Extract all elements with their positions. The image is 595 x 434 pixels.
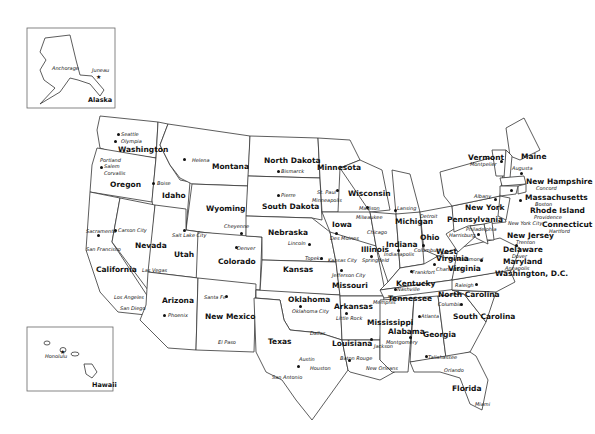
capital-label-olympia: Olympia (121, 139, 142, 144)
state-label-colorado: Colorado (218, 258, 256, 266)
city-label-el-paso: El Paso (218, 340, 236, 345)
city-dot (366, 206, 369, 209)
city-dot (422, 244, 425, 247)
city-dot (97, 234, 100, 237)
city-dot (335, 232, 338, 235)
state-label-maine: Maine (521, 153, 547, 161)
city-dot (308, 243, 311, 246)
state-label-south-dakota: South Dakota (262, 203, 319, 211)
state-label-nebraska: Nebraska (268, 229, 308, 237)
state-label-ohio: Ohio (420, 234, 439, 242)
state-label-hawaii: Hawaii (92, 382, 117, 389)
capital-label-montpelier: Montpelier (470, 162, 497, 167)
state-label-missouri: Missouri (332, 282, 368, 290)
city-label-dallas: Dallas (310, 331, 325, 336)
state-label-north-dakota: North Dakota (264, 157, 321, 165)
city-dot (240, 232, 243, 235)
city-label-houston: Houston (310, 366, 331, 371)
capital-label-salem: Salem (104, 164, 120, 169)
capital-label-augusta: Augusta (512, 166, 533, 171)
state-label-oklahoma: Oklahoma (288, 296, 330, 304)
capital-label-cheyenne: Cheyenne (224, 224, 249, 229)
capital-label-denver: Denver (237, 246, 255, 251)
capital-label-austin: Austin (299, 357, 315, 362)
state-label-georgia: Georgia (423, 331, 456, 339)
city-label-san-francisco: San Francisco (86, 247, 121, 252)
capital-label-carson-city: Carson City (118, 228, 147, 233)
state-label-iowa: Iowa (332, 221, 352, 229)
capital-label-little-rock: Little Rock (336, 316, 362, 321)
capital-label-montgomery: Montgomery (386, 340, 418, 345)
city-dot (425, 355, 428, 358)
city-dot (152, 182, 155, 185)
capital-label-indianapolis: Indianapolis (384, 252, 414, 257)
city-dot (163, 314, 166, 317)
city-dot (100, 166, 103, 169)
city-label-miami: Miami (475, 402, 490, 407)
city-label-kansas-city: Kansas City (328, 258, 357, 263)
capital-label-charleston: Charleston (436, 267, 463, 272)
city-label-los-angeles: Los Angeles (114, 295, 144, 300)
capital-label-frankfort: Frankfort (412, 270, 435, 275)
capital-label-santa-fe: Santa Fe (204, 295, 226, 300)
state-label-washington: Washington (118, 146, 168, 154)
capital-star-icon: ★ (96, 74, 101, 80)
city-label-seattle: Seattle (121, 132, 139, 137)
city-label-orlando: Orlando (444, 368, 464, 373)
city-label-las-vegas: Las Vegas (142, 268, 167, 273)
city-dot (409, 336, 412, 339)
state-label-west-virginia: West Virginia (436, 248, 466, 262)
city-dot (235, 246, 238, 249)
capital-label-springfield: Springfield (362, 258, 389, 263)
capital-label-baton-rouge: Baton Rouge (340, 356, 372, 361)
state-label-wyoming: Wyoming (206, 205, 245, 213)
city-label-philadelphia: Philadelphia (466, 227, 496, 232)
city-label-minneapolis: Minneapolis (312, 198, 342, 203)
capital-label-raleigh: Raleigh (455, 283, 474, 288)
state-label-washington-dc: Washington, D.C. (495, 270, 568, 278)
state-label-arizona: Arizona (162, 297, 194, 305)
state-label-montana: Montana (212, 163, 249, 171)
state-label-north-carolina: North Carolina (438, 291, 500, 299)
city-dot (519, 199, 522, 202)
city-dot (348, 359, 351, 362)
city-dot (320, 257, 323, 260)
state-label-new-york: New York (465, 204, 505, 212)
city-label-milwaukee: Milwaukee (356, 215, 382, 220)
city-dot (510, 189, 513, 192)
capital-label-st-paul: St. Paul (317, 190, 336, 195)
city-dot (225, 295, 228, 298)
state-label-arkansas: Arkansas (334, 303, 373, 311)
capital-star-icon: ★ (60, 349, 65, 355)
capital-label-oklahoma-city: Oklahoma City (292, 309, 329, 314)
state-label-pennsylvania: Pennsylvania (447, 216, 503, 224)
city-label-memphis: Memphis (373, 300, 396, 305)
capital-label-phoenix: Phoenix (168, 313, 188, 318)
city-label-new-orleans: New Orleans (366, 366, 398, 371)
city-label-san-diego: San Diego (120, 306, 146, 311)
city-dot (297, 365, 300, 368)
city-label-san-antonio: San Antonio (272, 375, 302, 380)
city-label-detroit: Detroit (420, 214, 437, 219)
state-label-wisconsin: Wisconsin (348, 190, 391, 198)
state-label-mississippi: Mississippi (367, 319, 413, 327)
capital-label-jefferson-city: Jefferson City (332, 273, 366, 278)
city-dot (370, 338, 373, 341)
city-dot (500, 160, 503, 163)
city-dot (475, 283, 478, 286)
city-dot (460, 303, 463, 306)
capital-label-harrisburg: Harrisburg (449, 233, 476, 238)
capital-label-madison: Madison (359, 206, 380, 211)
state-label-michigan: Michigan (395, 218, 433, 226)
city-dot (477, 233, 480, 236)
city-dot (394, 209, 397, 212)
capital-label-concord: Concord (536, 186, 557, 191)
city-dot (520, 172, 523, 175)
state-label-minnesota: Minnesota (317, 164, 361, 172)
city-dot (299, 305, 302, 308)
city-dot (515, 244, 518, 247)
capital-label-helena: Helena (192, 158, 210, 163)
capital-label-sacramento: Sacramento (86, 229, 116, 234)
capital-label-nashville: Nashville (397, 287, 420, 292)
city-dot (183, 158, 186, 161)
